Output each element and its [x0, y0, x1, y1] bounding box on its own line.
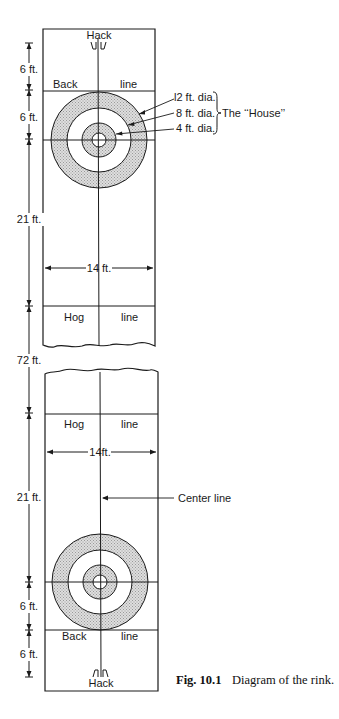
hog-line-label-left-top: Hog	[64, 311, 84, 323]
figure-caption: Fig. 10.1 Diagram of the rink.	[176, 673, 334, 687]
rink-diagram: Hack Back line 14 ft. Hog line l2 ft. di…	[0, 0, 339, 719]
center-line-top	[98, 38, 99, 346]
rink-outline-bottom	[45, 368, 158, 691]
hack-label-bottom: Hack	[88, 677, 114, 689]
back-line-label-left-top: Back	[53, 78, 78, 90]
center-line-bottom	[100, 372, 101, 677]
dim-label-72ft: 72 ft.	[17, 354, 41, 366]
back-line-label-right-top: line	[120, 78, 137, 90]
back-line-label-right-bottom: line	[121, 630, 138, 642]
hog-line-label-right-bottom: line	[121, 418, 138, 430]
house-group-label: The ‘‘House’’	[222, 107, 285, 119]
dim-label-6ft-2: 6 ft.	[20, 111, 38, 123]
dim-label-21ft-bottom: 21 ft.	[17, 491, 41, 503]
dim-label-6ft-3: 6 ft.	[20, 600, 38, 612]
ring-8ft-label: 8 ft. dia.	[176, 107, 215, 119]
figure-number: Fig. 10.1	[176, 673, 221, 687]
hack-label-top: Hack	[86, 29, 112, 41]
dim-label-6ft-4: 6 ft.	[20, 648, 38, 660]
width-label-top: 14 ft.	[87, 262, 111, 274]
back-line-label-left-bottom: Back	[62, 630, 87, 642]
width-label-bottom: 14ft.	[89, 446, 110, 458]
center-line-label: Center line	[178, 492, 231, 504]
dim-label-6ft-1: 6 ft.	[20, 63, 38, 75]
rink-top-section: Hack Back line 14 ft. Hog line l2 ft. di…	[43, 29, 285, 347]
dim-label-21ft-top: 21 ft.	[17, 213, 41, 225]
hog-line-label-right-top: line	[121, 311, 138, 323]
rink-bottom-section: Hog line 14ft. Center line Back line Hac…	[45, 368, 231, 691]
ring-12ft-label: l2 ft. dia.	[174, 91, 216, 103]
hog-line-label-left-bottom: Hog	[64, 418, 84, 430]
caption-text: Diagram of the rink.	[232, 673, 334, 687]
ring-4ft-label: 4 ft. dia.	[176, 122, 215, 134]
